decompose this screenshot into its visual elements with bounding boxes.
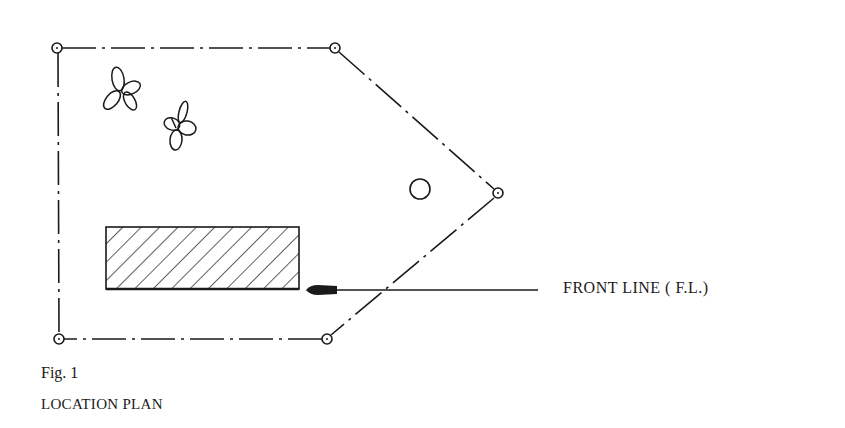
corner-marker-bottom-left <box>54 334 64 344</box>
flower-icon <box>100 66 142 112</box>
front-line-arrow <box>306 285 538 295</box>
corner-markers <box>52 43 503 344</box>
tree-circle-icon <box>410 179 430 199</box>
boundary-upper-right <box>339 52 494 189</box>
building-footprint <box>106 227 299 289</box>
arrowhead-icon <box>306 285 337 295</box>
boundary-left <box>58 53 59 334</box>
front-line-label: FRONT LINE ( F.L.) <box>563 279 709 297</box>
flower-icon <box>162 100 197 150</box>
boundary-lower-right <box>331 198 494 335</box>
figure-number: Fig. 1 <box>41 364 78 382</box>
corner-marker-top-left <box>52 43 62 53</box>
figure-title: LOCATION PLAN <box>41 396 163 413</box>
corner-marker-bottom-right <box>322 334 332 344</box>
corner-marker-right <box>493 188 503 198</box>
location-plan-diagram <box>0 0 845 428</box>
corner-marker-top-right <box>330 43 340 53</box>
